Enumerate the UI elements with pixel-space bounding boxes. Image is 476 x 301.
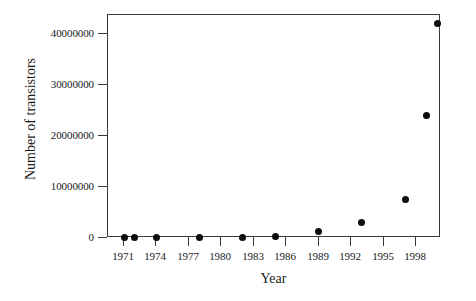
x-axis-title: Year	[107, 271, 440, 287]
y-tick-label-30000000: 30000000	[51, 79, 94, 90]
y-tick-label-20000000: 20000000	[51, 130, 94, 141]
y-tick-mark-30000000	[98, 84, 107, 85]
data-point	[196, 234, 203, 241]
x-tick-mark-1992	[350, 237, 351, 246]
y-tick-mark-40000000	[98, 33, 107, 34]
x-tick-label-1998: 1998	[385, 250, 445, 262]
data-point	[239, 234, 246, 241]
x-tick-mark-1998	[415, 237, 416, 246]
data-point	[434, 20, 441, 27]
plot-area	[107, 14, 440, 237]
data-point	[131, 234, 138, 241]
x-tick-mark-1989	[318, 237, 319, 246]
y-tick-mark-20000000	[98, 135, 107, 136]
data-point	[272, 233, 279, 240]
data-point	[153, 234, 160, 241]
data-point	[358, 219, 365, 226]
x-tick-mark-1977	[188, 237, 189, 246]
y-tick-mark-10000000	[98, 186, 107, 187]
y-tick-label-0: 0	[89, 232, 94, 243]
chart-figure: 40000000 30000000 20000000 10000000 0 19…	[0, 0, 476, 301]
y-tick-label-40000000: 40000000	[51, 28, 94, 39]
data-point	[121, 234, 128, 241]
y-tick-mark-0	[98, 237, 107, 238]
data-point	[423, 112, 430, 119]
y-tick-label-10000000: 10000000	[51, 181, 94, 192]
y-axis-title: Number of transistors	[23, 9, 39, 229]
x-tick-mark-1986	[285, 237, 286, 246]
data-point	[315, 228, 322, 235]
data-point	[402, 196, 409, 203]
scatter-series	[108, 15, 439, 236]
x-tick-mark-1980	[220, 237, 221, 246]
x-tick-mark-1983	[253, 237, 254, 246]
x-tick-mark-1995	[383, 237, 384, 246]
